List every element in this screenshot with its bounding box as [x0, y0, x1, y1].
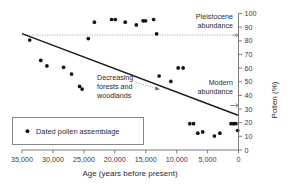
data-point — [78, 85, 82, 89]
y-axis-title: Pollen (%) — [270, 81, 279, 118]
pleistocene-abundance-line1: Pleistocene — [196, 12, 233, 21]
data-point — [181, 66, 185, 70]
data-point — [201, 130, 205, 134]
legend-marker-icon — [26, 129, 30, 133]
data-point — [176, 66, 180, 70]
data-point — [192, 122, 196, 126]
decreasing-forests-line3: woodlands — [96, 91, 132, 100]
data-point — [62, 65, 66, 69]
x-tick-label-0: 0 — [237, 155, 241, 164]
y-tick-label-70: 70 — [245, 50, 253, 59]
data-point — [28, 38, 32, 42]
y-tick-label-40: 40 — [245, 91, 253, 100]
legend-entry-label: Dated pollen assemblage — [36, 127, 119, 136]
y-tick-label-100: 100 — [245, 9, 257, 18]
data-point — [86, 37, 90, 41]
pleistocene-abundance-line2: abundance — [197, 21, 233, 30]
data-point — [80, 87, 84, 91]
data-point — [218, 131, 222, 135]
y-tick-label-0: 0 — [245, 146, 249, 155]
x-axis-title: Age (years before present) — [82, 169, 177, 178]
x-tick-label-20000: 20,000 — [104, 155, 126, 164]
y-tick-label-50: 50 — [245, 77, 253, 86]
y-tick-label-10: 10 — [245, 132, 253, 141]
y-tick-label-30: 30 — [245, 105, 253, 114]
data-point — [45, 64, 49, 68]
data-point — [144, 19, 148, 23]
y-tick-label-80: 80 — [245, 36, 253, 45]
modern-abundance-line1: Modern — [209, 78, 233, 87]
data-point — [196, 131, 200, 135]
x-tick-label-35000: 35,000 — [11, 155, 33, 164]
pollen-abundance-scatter-chart: 100 90 80 70 60 50 40 30 20 10 0 Pollen … — [0, 0, 290, 185]
data-point — [39, 59, 43, 63]
x-tick-label-25000: 25,000 — [73, 155, 95, 164]
chart-canvas: 100 90 80 70 60 50 40 30 20 10 0 Pollen … — [0, 0, 290, 185]
decreasing-forests-line2: forests and — [97, 82, 133, 91]
data-point — [188, 122, 192, 126]
pleistocene-abundance-annotation: Pleistocene abundance — [196, 12, 233, 30]
y-tick-label-90: 90 — [245, 23, 253, 32]
modern-abundance-line2: abundance — [197, 87, 233, 96]
data-point — [113, 18, 117, 22]
y-tick-label-60: 60 — [245, 64, 253, 73]
data-point — [152, 18, 156, 22]
decreasing-forests-line1: Decreasing — [97, 73, 133, 82]
data-point — [93, 20, 97, 24]
data-point — [236, 129, 240, 133]
x-tick-label-15000: 15,000 — [135, 155, 157, 164]
data-point — [169, 80, 173, 84]
x-tick-label-10000: 10,000 — [166, 155, 188, 164]
data-point — [134, 23, 138, 27]
chart-legend: Dated pollen assemblage — [13, 118, 144, 145]
data-point — [123, 20, 127, 24]
data-point — [70, 72, 74, 76]
data-point — [157, 74, 161, 78]
data-point — [234, 122, 238, 126]
data-point — [213, 134, 217, 138]
y-tick-label-20: 20 — [245, 118, 253, 127]
x-tick-label-5000: 5,000 — [199, 155, 217, 164]
x-tick-label-30000: 30,000 — [42, 155, 64, 164]
data-point — [155, 32, 159, 36]
data-point — [110, 18, 114, 22]
